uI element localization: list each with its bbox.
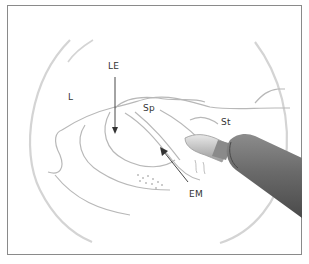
illustration-drawing — [0, 0, 309, 264]
surgical-instrument — [185, 134, 302, 218]
label-le: LE — [108, 62, 119, 71]
label-l: L — [68, 93, 73, 102]
label-sp: Sp — [143, 104, 155, 113]
label-st: St — [221, 118, 231, 127]
tissue-speckles — [137, 174, 163, 189]
label-em: EM — [189, 190, 203, 199]
endoscopic-illustration: LE L Sp St EM — [0, 0, 309, 264]
